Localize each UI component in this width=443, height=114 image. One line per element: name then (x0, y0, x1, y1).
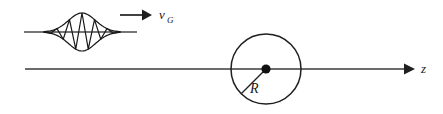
propagation-arrow-group (120, 10, 152, 21)
wave-packet-carrier (44, 13, 120, 49)
figure-canvas: v G R z (0, 0, 443, 114)
z-axis-group (25, 64, 415, 75)
wave-packet-scattering-figure: v G R z (0, 0, 443, 114)
group-velocity-subscript: G (167, 15, 174, 25)
group-velocity-symbol: v (159, 7, 165, 22)
radius-label: R (249, 81, 259, 96)
propagation-arrowhead (142, 10, 152, 21)
z-axis-label: z (420, 61, 426, 76)
z-axis-arrowhead (404, 64, 415, 75)
wave-packet-envelope-lower (44, 32, 120, 51)
group-velocity-label: v G (159, 7, 174, 25)
sphere-center-dot (261, 64, 270, 73)
